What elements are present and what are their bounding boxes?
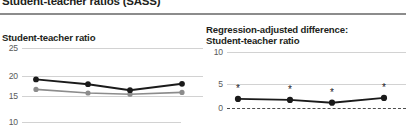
significance-star: *	[236, 83, 240, 94]
plot-area-right: 10 5 0 * * * *	[205, 46, 406, 130]
series-dark-marker	[33, 77, 39, 83]
series-dark-marker	[127, 87, 133, 93]
panel-right-title: Regression-adjusted difference: Student-…	[206, 25, 348, 46]
significance-star: *	[330, 87, 334, 98]
series-gray-line	[36, 89, 182, 94]
series-difference-marker	[235, 96, 241, 102]
series-dark-line	[36, 79, 182, 90]
panel-right-title-line2: Student-teacher ratio	[206, 35, 299, 46]
series-gray-marker	[85, 90, 90, 95]
plot-area-left: 25 20 15 10	[0, 42, 203, 130]
series-difference-marker	[287, 97, 293, 103]
series-dark-marker	[179, 81, 185, 87]
figure-panel-student-teacher-ratios: Student-teacher ratios (SASS) Student-te…	[0, 0, 406, 130]
panel-right-title-line1: Regression-adjusted difference:	[206, 24, 348, 35]
series-difference-group	[235, 95, 387, 106]
series-difference-line	[238, 98, 384, 103]
series-dark-marker	[85, 81, 91, 87]
panel-regression-adjusted-difference: Regression-adjusted difference: Student-…	[205, 0, 406, 130]
significance-star: *	[382, 82, 386, 93]
significance-star: *	[288, 84, 292, 95]
right-series-svg: * * * *	[205, 46, 406, 130]
significance-stars-group: * * * *	[236, 82, 386, 98]
series-gray-group	[33, 87, 184, 97]
left-series-svg	[0, 42, 203, 130]
series-difference-marker	[329, 100, 335, 106]
series-difference-marker	[381, 95, 387, 101]
panel-student-teacher-ratio: Student-teacher ratio 25 20 15 10	[0, 0, 203, 130]
series-gray-marker	[179, 90, 184, 95]
series-gray-marker	[33, 87, 38, 92]
